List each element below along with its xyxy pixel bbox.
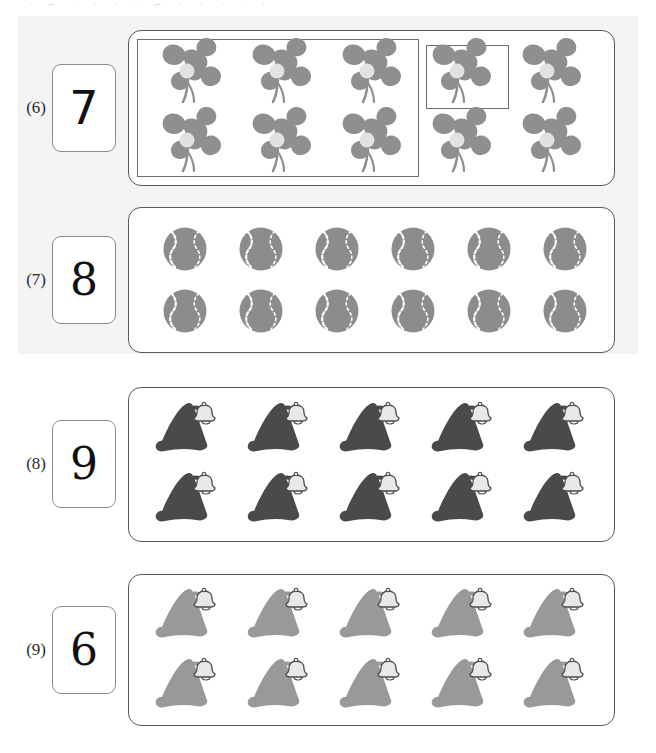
clover-shape [421, 110, 495, 176]
exercise-label-7: (7) [0, 270, 52, 290]
clover-shape [331, 110, 405, 176]
countable-object-tennis-ball [527, 280, 603, 342]
countable-object-tennis-ball [147, 280, 223, 342]
santa-hat-shape [153, 584, 225, 646]
clover-center [450, 132, 465, 147]
clover-shape [241, 110, 315, 176]
exercise-label-9: (9) [0, 640, 52, 660]
countable-object-four-leaf-clover [323, 108, 413, 177]
santa-hat-shape [337, 398, 409, 460]
bell-icon [378, 472, 399, 494]
object-panel-7 [128, 207, 615, 353]
clover-shape [511, 41, 585, 107]
santa-hat-shape [521, 398, 593, 460]
answer-box-7[interactable]: 8 [52, 236, 116, 324]
santa-hat-shape [245, 398, 317, 460]
clover-center [450, 63, 465, 78]
countable-object-four-leaf-clover [143, 39, 233, 108]
countable-object-santa-hat-dark [235, 464, 327, 534]
tennis-ball-shape [542, 288, 588, 334]
bell-icon [286, 402, 307, 424]
countable-object-four-leaf-clover [233, 39, 323, 108]
bell-icon [194, 588, 215, 610]
object-grid-9 [129, 575, 614, 725]
santa-hat-shape [337, 468, 409, 530]
countable-object-four-leaf-clover [413, 39, 503, 108]
countable-object-santa-hat-dark [327, 464, 419, 534]
santa-hat-shape [429, 398, 501, 460]
object-grid-row [129, 218, 614, 280]
santa-hat-shape [521, 654, 593, 716]
bell-icon [194, 658, 215, 680]
countable-object-four-leaf-clover [143, 108, 233, 177]
countable-object-santa-hat-light [511, 580, 603, 650]
countable-object-santa-hat-light [419, 650, 511, 720]
countable-object-santa-hat-dark [327, 394, 419, 464]
countable-object-santa-hat-dark [419, 394, 511, 464]
answer-box-6[interactable]: 7 [52, 64, 116, 152]
answer-digit-7: 8 [70, 258, 98, 302]
object-grid-row [129, 280, 614, 342]
countable-object-tennis-ball [223, 280, 299, 342]
worksheet-page: · ⌐ · · · · ⌐ · · · · · (6) 7 (7) 8 (8) … [0, 0, 656, 753]
santa-hat-shape [521, 468, 593, 530]
tennis-ball-shape [162, 226, 208, 272]
bell-icon [194, 402, 215, 424]
countable-object-tennis-ball [299, 218, 375, 280]
santa-hat-shape [429, 654, 501, 716]
object-grid-row [129, 108, 614, 177]
object-grid-row [129, 394, 614, 464]
tennis-ball-shape [314, 288, 360, 334]
object-grid-row [129, 464, 614, 534]
bell-icon [470, 402, 491, 424]
object-panel-9 [128, 574, 615, 726]
object-grid-row [129, 39, 614, 108]
bell-icon [562, 588, 583, 610]
clover-center [270, 63, 285, 78]
santa-hat-shape [429, 468, 501, 530]
santa-hat-shape [337, 584, 409, 646]
clover-shape [421, 41, 495, 107]
countable-object-santa-hat-light [235, 650, 327, 720]
countable-object-tennis-ball [223, 218, 299, 280]
countable-object-tennis-ball [451, 218, 527, 280]
object-grid-8 [129, 388, 614, 541]
countable-object-santa-hat-dark [235, 394, 327, 464]
tennis-ball-shape [238, 226, 284, 272]
countable-object-four-leaf-clover [233, 108, 323, 177]
santa-hat-shape [153, 398, 225, 460]
clover-center [180, 63, 195, 78]
countable-object-santa-hat-dark [143, 464, 235, 534]
bell-icon [470, 658, 491, 680]
bell-icon [286, 658, 307, 680]
santa-hat-shape [337, 654, 409, 716]
tennis-ball-shape [238, 288, 284, 334]
bell-icon [378, 658, 399, 680]
answer-box-9[interactable]: 6 [52, 606, 116, 694]
bell-icon [562, 658, 583, 680]
santa-hat-shape [245, 468, 317, 530]
answer-digit-9: 6 [70, 628, 98, 672]
exercise-row-7: (7) 8 [0, 206, 656, 354]
cut-off-header-text: · ⌐ · · · · ⌐ · · · · · [0, 0, 656, 13]
countable-object-santa-hat-light [235, 580, 327, 650]
clover-shape [511, 110, 585, 176]
countable-object-four-leaf-clover [323, 39, 413, 108]
tennis-ball-shape [466, 226, 512, 272]
answer-digit-8: 9 [70, 442, 98, 486]
bell-icon [378, 402, 399, 424]
countable-object-tennis-ball [527, 218, 603, 280]
bell-icon [194, 472, 215, 494]
countable-object-four-leaf-clover [503, 39, 593, 108]
bell-icon [562, 402, 583, 424]
answer-box-8[interactable]: 9 [52, 420, 116, 508]
countable-object-santa-hat-light [143, 650, 235, 720]
bell-icon [286, 472, 307, 494]
object-grid-7 [129, 208, 614, 352]
countable-object-four-leaf-clover [413, 108, 503, 177]
clover-center [180, 132, 195, 147]
tennis-ball-shape [390, 288, 436, 334]
exercise-row-8: (8) 9 [0, 384, 656, 544]
bell-icon [286, 588, 307, 610]
clover-shape [331, 41, 405, 107]
